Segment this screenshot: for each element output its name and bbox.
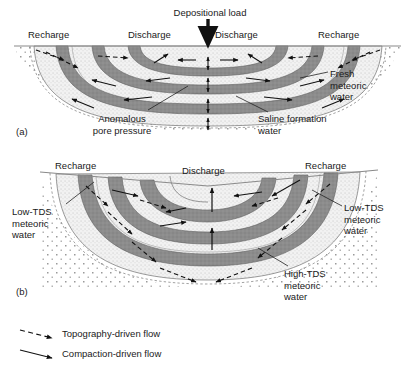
surface-label-discharge-center-b: Discharge xyxy=(182,165,225,177)
surface-label-discharge-right-a: Discharge xyxy=(215,29,258,41)
annotation-low-tds-meteoric-water-right: Low-TDS meteoric water xyxy=(344,202,412,237)
surface-label-recharge-right-a: Recharge xyxy=(318,29,359,41)
annotation-high-tds-meteoric-water: High-TDS meteoric water xyxy=(284,268,360,303)
annotation-fresh-meteoric-water: Fresh meteoric water xyxy=(330,68,402,103)
annotation-saline-formation-water: Saline formation water xyxy=(258,113,370,136)
legend-label-topography-driven-flow: Topography-driven flow xyxy=(62,328,160,340)
panel-id-a: (a) xyxy=(16,126,28,137)
annotation-anomalous-pore-pressure: Anomalous pore pressure xyxy=(74,113,170,136)
basin-cross-section-figure xyxy=(0,0,415,366)
depositional-load-label: Depositional load xyxy=(150,7,270,19)
surface-label-discharge-left-a: Discharge xyxy=(128,29,171,41)
annotation-low-tds-meteoric-water-left: Low-TDS meteoric water xyxy=(12,206,74,241)
surface-label-recharge-left-b: Recharge xyxy=(55,160,96,172)
panel-id-b: (b) xyxy=(16,286,28,297)
legend-label-compaction-driven-flow: Compaction-driven flow xyxy=(62,348,161,360)
surface-label-recharge-left-a: Recharge xyxy=(28,29,69,41)
surface-label-recharge-right-b: Recharge xyxy=(305,160,346,172)
